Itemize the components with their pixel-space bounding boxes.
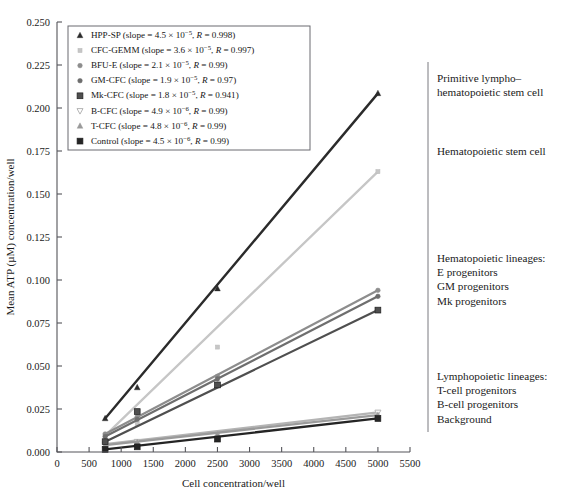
y-tick-label: 0.175 [26,146,50,157]
y-tick-label: 0.250 [26,17,50,28]
marker-square-icon [102,439,108,445]
annotation-group-1: Hematopoietic stem cell [437,145,546,157]
y-tick-label: 0.050 [26,361,50,372]
series-trendline [105,172,378,436]
series-trendline [105,296,378,436]
legend-entry-gm-cfc[interactable]: GM-CFC (slope = 1.9 × 10−5, R = 0.97) [78,74,236,86]
annotation-line: Mk progenitors [437,295,506,307]
y-axis-title: Mean ATP (µM) concentration/well [4,158,17,315]
marker-dot-icon [78,63,83,68]
series-trendline [105,290,378,434]
x-tick-label: 4500 [335,458,356,469]
chart-svg: 0.0000.0250.0500.0750.1000.1250.1500.175… [0,0,580,497]
legend-entry-label: B-CFC (slope = 4.9 × 10−6, R = 0.99) [91,104,228,116]
legend-entry-hpp-sp[interactable]: HPP-SP (slope = 4.5 × 10−5, R = 0.998) [77,29,235,41]
marker-square-icon [134,444,140,450]
legend-entry-label: BFU-E (slope = 2.1 × 10−5, R = 0.99) [91,59,228,71]
annotation-line: Lymphopoietic lineages: [437,370,547,382]
marker-square-icon [215,436,221,442]
x-tick-label: 2000 [175,458,196,469]
marker-dot-icon [78,78,83,83]
legend-entry-label: CFC-GEMM (slope = 3.6 × 10−5, R = 0.997) [91,44,254,56]
marker-square-icon [215,382,221,388]
annotation-line: B-cell progenitors [437,398,518,410]
marker-square-icon [375,307,381,313]
annotation-line: T-cell progenitors [437,384,516,396]
marker-triangle-up-icon [375,90,381,96]
x-tick-label: 5500 [400,458,421,469]
legend-entry-label: Mk-CFC (slope = 1.8 × 10−5, R = 0.941) [91,89,239,101]
marker-dot-icon [135,417,140,422]
marker-small-square-icon [215,345,219,349]
series-trendline [105,415,378,445]
y-tick-label: 0.125 [26,232,50,243]
y-tick-label: 0.025 [26,404,50,415]
marker-square-icon [77,93,83,99]
legend-entry-t-cfc[interactable]: T-CFC (slope = 4.8 × 10−6, R = 0.99) [77,119,226,131]
legend-entry-control[interactable]: Control (slope = 4.5 × 10−6, R = 0.99) [77,134,229,146]
chart-legend: HPP-SP (slope = 4.5 × 10−5, R = 0.998)CF… [68,26,310,150]
marker-small-square-icon [376,170,380,174]
series-trendline [105,310,378,442]
x-tick-label: 4000 [303,458,324,469]
series-cfc-gemm [103,170,380,438]
marker-square-icon [375,416,381,422]
series-bfu-e [103,288,380,436]
x-tick-label: 0 [54,458,59,469]
legend-entry-mk-cfc[interactable]: Mk-CFC (slope = 1.8 × 10−5, R = 0.941) [77,89,239,101]
x-tick-label: 3000 [239,458,260,469]
y-tick-label: 0.200 [26,103,50,114]
x-tick-label: 5000 [367,458,388,469]
legend-entry-cfc-gemm[interactable]: CFC-GEMM (slope = 3.6 × 10−5, R = 0.997) [78,44,254,56]
x-tick-label: 1000 [111,458,132,469]
y-tick-label: 0.225 [26,60,50,71]
annotation-line: GM progenitors [437,280,509,292]
x-tick-label: 2500 [207,458,228,469]
annotation-line: E progenitors [437,266,498,278]
y-tick-label: 0.150 [26,189,50,200]
marker-dot-icon [376,294,381,299]
figure-container: 0.0000.0250.0500.0750.1000.1250.1500.175… [0,0,580,497]
marker-dot-icon [376,288,381,293]
x-tick-label: 500 [81,458,97,469]
y-tick-label: 0.100 [26,275,50,286]
annotation-line: hematopoietic stem cell [437,86,543,98]
legend-entry-b-cfc[interactable]: B-CFC (slope = 4.9 × 10−6, R = 0.99) [77,104,228,116]
annotation-group-0: Primitive lympho–hematopoietic stem cell [437,72,543,98]
marker-small-square-icon [78,49,82,53]
annotation-line: Primitive lympho– [437,72,522,84]
legend-entry-label: GM-CFC (slope = 1.9 × 10−5, R = 0.97) [91,74,236,86]
y-tick-label: 0.000 [26,447,50,458]
annotation-layer: Primitive lympho–hematopoietic stem cell… [428,62,547,432]
marker-square-icon [102,447,108,453]
marker-dot-icon [215,377,220,382]
annotation-group-2: Hematopoietic lineages:E progenitorsGM p… [437,252,545,307]
legend-entry-label: T-CFC (slope = 4.8 × 10−6, R = 0.99) [91,119,226,131]
annotation-line: Hematopoietic stem cell [437,145,546,157]
marker-square-icon [77,138,83,144]
x-tick-label: 1500 [143,458,164,469]
series-control [102,416,381,453]
marker-square-icon [134,409,140,415]
marker-triangle-up-icon [134,384,140,390]
x-axis-title: Cell concentration/well [182,477,285,489]
annotation-line: Hematopoietic lineages: [437,252,545,264]
x-tick-label: 3500 [271,458,292,469]
legend-entry-label: Control (slope = 4.5 × 10−6, R = 0.99) [91,134,229,146]
annotation-line: Background [437,413,492,425]
marker-dot-icon [103,434,108,439]
legend-entry-bfu-e[interactable]: BFU-E (slope = 2.1 × 10−5, R = 0.99) [78,59,228,71]
legend-entry-label: HPP-SP (slope = 4.5 × 10−5, R = 0.998) [91,29,235,41]
annotation-group-3: Lymphopoietic lineages:T-cell progenitor… [437,370,547,425]
y-tick-label: 0.075 [26,318,50,329]
